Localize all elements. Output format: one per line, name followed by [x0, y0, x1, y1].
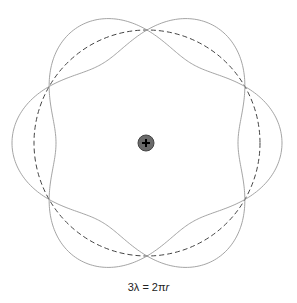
nucleus: [138, 135, 154, 151]
standing-wave-diagram: [0, 0, 297, 303]
standing-wave-curve-b: [49, 19, 282, 268]
standing-wave-curve-a: [12, 19, 245, 268]
equation-text: 3λ = 2π: [128, 281, 166, 293]
equation-caption: 3λ = 2πr: [0, 281, 297, 293]
equation-variable-r: r: [166, 281, 170, 293]
